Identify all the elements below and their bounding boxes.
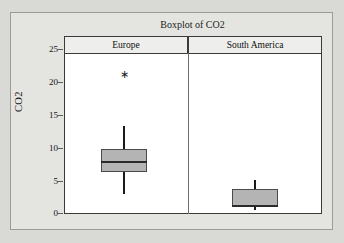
y-tick-mark-5 <box>57 181 63 182</box>
outlier-marker: ∗ <box>120 71 128 77</box>
panel-header-europe: Europe <box>64 36 188 53</box>
y-tick-label-10: 10 <box>36 144 58 153</box>
plot-area <box>64 53 322 214</box>
y-tick-label-0: 0 <box>36 209 58 218</box>
chart-title: Boxplot of CO2 <box>60 18 325 32</box>
y-tick-label-5: 5 <box>36 177 58 186</box>
y-tick-mark-20 <box>57 82 63 83</box>
median-south-america <box>232 205 278 207</box>
panel-divider <box>188 53 189 214</box>
y-tick-label-15: 15 <box>36 111 58 120</box>
y-tick-mark-0 <box>57 213 63 214</box>
y-axis-tick-labels: 25 20 15 10 5 0 <box>30 0 58 243</box>
y-tick-mark-25 <box>57 49 63 50</box>
y-axis-title: CO2 <box>13 91 24 112</box>
median-europe <box>101 161 147 163</box>
panel-header-south-america: South America <box>188 36 322 53</box>
y-tick-mark-10 <box>57 148 63 149</box>
y-tick-mark-15 <box>57 115 63 116</box>
y-tick-label-25: 25 <box>36 45 58 54</box>
y-tick-label-20: 20 <box>36 78 58 87</box>
boxplot-screenshot: Boxplot of CO2 Europe South America CO2 … <box>0 0 344 243</box>
